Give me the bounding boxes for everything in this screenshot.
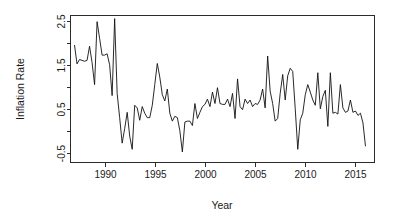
y-tick-label: -0.5 bbox=[56, 144, 67, 162]
x-tick-label: 1995 bbox=[144, 169, 167, 180]
x-tick-label: 2015 bbox=[344, 169, 367, 180]
chart-figure: -0.50.51.52.5 199019952000200520102015 I… bbox=[0, 0, 395, 223]
y-tick-label: 1.5 bbox=[56, 58, 67, 72]
x-tick-label: 2010 bbox=[294, 169, 317, 180]
inflation-rate-line-chart: -0.50.51.52.5 199019952000200520102015 I… bbox=[0, 0, 395, 223]
y-axis-title: Inflation Rate bbox=[14, 58, 26, 120]
x-axis-title: Year bbox=[211, 199, 233, 211]
x-tick-label: 1990 bbox=[94, 169, 117, 180]
x-tick-label: 2000 bbox=[194, 169, 217, 180]
x-tick-label: 2005 bbox=[244, 169, 267, 180]
y-tick-label: 0.5 bbox=[56, 102, 67, 116]
y-tick-label: 2.5 bbox=[56, 14, 67, 28]
